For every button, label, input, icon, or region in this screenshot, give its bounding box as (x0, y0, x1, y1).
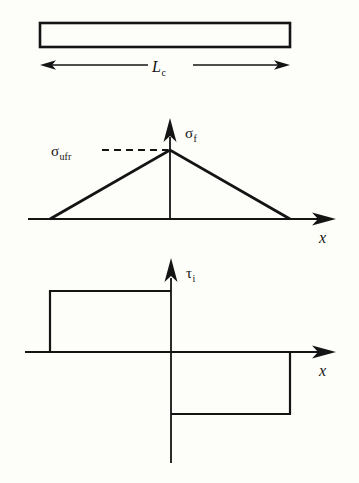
axial-stress-panel: x σf σufr (28, 118, 336, 246)
shear-stress-panel: x τi (25, 258, 336, 463)
critical-length-dimension: Lc (40, 58, 290, 78)
fibre-element-panel: Lc (40, 23, 290, 78)
shear-positive-step (50, 291, 171, 352)
figure-canvas: Lc x σf σufr (0, 0, 359, 483)
shear-x-axis-label: x (318, 362, 326, 379)
peak-stress-label: σufr (51, 143, 72, 162)
critical-length-label: Lc (151, 58, 166, 78)
axial-y-axis-label: σf (185, 125, 198, 144)
figure-root: Lc x σf σufr (0, 0, 359, 483)
shear-negative-step (171, 352, 290, 414)
fibre-rectangle (40, 23, 290, 47)
shear-y-axis-label: τi (186, 265, 196, 284)
axial-x-axis-label: x (318, 229, 326, 246)
